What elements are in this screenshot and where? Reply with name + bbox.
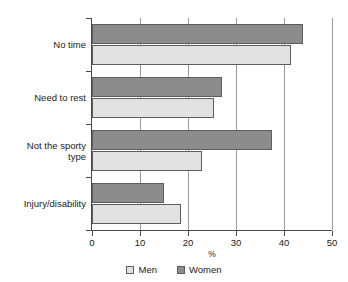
x-axis-tick-label: 40 <box>269 237 299 248</box>
x-axis-tick <box>188 231 189 236</box>
category-label-line: Injury/disability <box>0 198 86 209</box>
x-axis-tick <box>92 231 93 236</box>
plot-area <box>92 18 332 230</box>
category-label: Need to rest <box>0 92 86 103</box>
bar-women <box>92 24 303 44</box>
legend-label: Women <box>189 264 222 275</box>
category-label-line: type <box>0 151 86 162</box>
bar-women <box>92 77 222 97</box>
bar-men <box>92 98 214 118</box>
x-axis-title: % <box>92 249 332 259</box>
bar-men <box>92 45 291 65</box>
x-axis-tick <box>236 231 237 236</box>
legend-swatch-women <box>177 266 185 274</box>
x-axis-tick-label: 10 <box>125 237 155 248</box>
legend-item: Men <box>126 264 156 275</box>
x-axis-tick <box>284 231 285 236</box>
category-label-line: Need to rest <box>0 92 86 103</box>
bar-men <box>92 151 202 171</box>
category-label: No time <box>0 39 86 50</box>
category-label-line: No time <box>0 39 86 50</box>
category-label-line: Not the sporty <box>0 140 86 151</box>
legend-label: Men <box>138 264 156 275</box>
x-axis-tick <box>332 231 333 236</box>
x-axis-tick-label: 0 <box>77 237 107 248</box>
bar-men <box>92 204 181 224</box>
x-axis-tick-label: 50 <box>317 237 347 248</box>
gridline <box>332 18 333 230</box>
bar-women <box>92 130 272 150</box>
bar-women <box>92 183 164 203</box>
legend-swatch-men <box>126 266 134 274</box>
category-label: Not the sportytype <box>0 140 86 162</box>
chart-legend: MenWomen <box>0 264 348 275</box>
x-axis-tick-label: 30 <box>221 237 251 248</box>
category-label: Injury/disability <box>0 198 86 209</box>
legend-item: Women <box>177 264 222 275</box>
x-axis-tick <box>140 231 141 236</box>
x-axis-tick-label: 20 <box>173 237 203 248</box>
x-axis-line <box>92 230 332 231</box>
bar-chart: No timeNeed to restNot the sportytypeInj… <box>0 0 348 282</box>
